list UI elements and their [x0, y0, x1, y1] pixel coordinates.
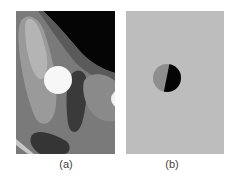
panel-b-caption: (b)	[152, 158, 192, 170]
panel-a-caption: (a)	[46, 158, 86, 170]
phantom-b-graphic	[126, 11, 224, 154]
panel-b-image	[126, 11, 224, 154]
phantom-a-graphic	[16, 11, 115, 154]
panel-a-image	[16, 11, 115, 154]
